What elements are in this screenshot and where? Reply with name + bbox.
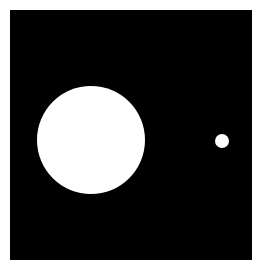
scene-description: White circles on a black square field bbox=[0, 0, 1, 1]
large-circle bbox=[37, 86, 145, 194]
image-canvas: White circles on a black square field bbox=[0, 0, 261, 271]
small-circle bbox=[215, 134, 229, 148]
